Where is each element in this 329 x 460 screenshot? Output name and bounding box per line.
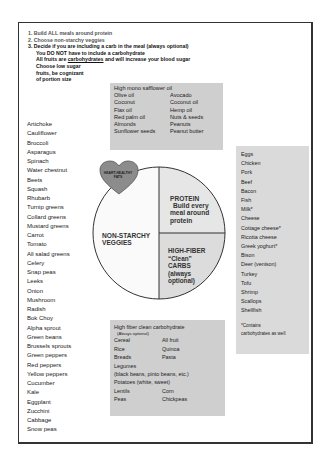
protein-item: Chicken bbox=[241, 159, 305, 168]
veggie-item: Leeks bbox=[27, 277, 71, 286]
protein-note: *Contains carbohydrates as well bbox=[241, 322, 305, 338]
carbs-label-line-4: (always bbox=[168, 270, 205, 278]
carb-potatoes: Potatoes (white, sweet) bbox=[114, 378, 221, 386]
list-item: Avocado bbox=[170, 92, 219, 99]
veggie-item: Cucumber bbox=[27, 379, 71, 388]
veggie-item: Onion bbox=[27, 287, 71, 296]
list-item: All fruit bbox=[162, 336, 221, 344]
carb-legumes-examples: (black beans, pinto beans, etc.) bbox=[114, 370, 221, 378]
protein-box: EggsChickenPorkBeefBaconFishMilk*CheeseC… bbox=[236, 146, 309, 354]
list-item: Red palm oil bbox=[114, 114, 170, 121]
list-item: Corn bbox=[162, 387, 221, 395]
list-item: Flax oil bbox=[114, 107, 170, 114]
veggie-item: Radish bbox=[27, 305, 71, 314]
list-item: Coconut oil bbox=[170, 99, 219, 106]
veggie-item: Green beans bbox=[27, 333, 71, 342]
fruits-text-underlined: carbohydrates bbox=[68, 56, 104, 62]
veggie-item: Mustard greens bbox=[27, 222, 71, 231]
protein-item: Cottage cheese* bbox=[241, 224, 305, 233]
veggie-item: Mushroom bbox=[27, 296, 71, 305]
instruction-low-sugar: Choose low sugar bbox=[28, 63, 190, 70]
carbs-label-line-1: HIGH-FIBER bbox=[168, 247, 205, 255]
carb-legumes: Legumes bbox=[114, 362, 221, 370]
protein-item: Shrimp bbox=[241, 288, 305, 297]
carb-list-b: LentilsCornPeasChickpeas bbox=[114, 387, 221, 404]
veggie-item: Beets bbox=[27, 176, 71, 185]
veggie-item: Squash bbox=[27, 185, 71, 194]
protein-item: Turkey bbox=[241, 270, 305, 279]
protein-item: Beef bbox=[241, 178, 305, 187]
list-item: Rice bbox=[114, 345, 162, 353]
protein-item: Ricotta cheese bbox=[241, 233, 305, 242]
list-item: Nuts & seeds bbox=[170, 114, 219, 121]
protein-label-line-4: protein bbox=[170, 217, 209, 224]
veggie-item: Cauliflower bbox=[27, 129, 71, 138]
protein-label-line-3: meal around bbox=[170, 209, 209, 216]
veggie-item: Celery bbox=[27, 259, 71, 268]
veggie-item: Turnip greens bbox=[27, 203, 71, 212]
protein-item: Shellfish bbox=[241, 306, 305, 315]
veggie-item: Tomato bbox=[27, 240, 71, 249]
instruction-step-2: 2. Choose non-starchy veggies bbox=[28, 37, 190, 44]
veggie-item: Carrot bbox=[27, 231, 71, 240]
veggie-item: Yellow peppers bbox=[27, 370, 71, 379]
carbs-label-line-2: “Clean” bbox=[168, 255, 205, 263]
list-item: Hemp oil bbox=[170, 107, 219, 114]
veggie-item: Broccoli bbox=[27, 139, 71, 148]
heart-label-line-2: FATS bbox=[101, 175, 135, 179]
veggie-item: Red peppers bbox=[27, 361, 71, 370]
instruction-fruits: All fruits are carbohydrates and will in… bbox=[28, 56, 190, 63]
carbs-label-line-5: optional) bbox=[168, 277, 205, 285]
list-item: Almonds bbox=[114, 121, 170, 128]
carb-list-a: CerealAll fruitRiceQuinoaBreadsPasta bbox=[114, 336, 221, 361]
veggie-item: Spinach bbox=[27, 157, 71, 166]
fruits-text-pre: All fruits are bbox=[36, 56, 68, 62]
protein-item: Milk* bbox=[241, 205, 305, 214]
veggie-item: Cabbage bbox=[27, 416, 71, 425]
list-item: Peas bbox=[114, 395, 162, 403]
veggie-item: Bok Choy bbox=[27, 314, 71, 323]
veggie-item: Rhubarb bbox=[27, 194, 71, 203]
protein-item: Greek yoghurt* bbox=[241, 242, 305, 251]
carb-box: High fiber clean carbohydrate (Always op… bbox=[110, 320, 225, 416]
protein-note-line-2: carbohydrates as well bbox=[241, 330, 305, 338]
fruits-text-post: and will increase your blood sugar bbox=[103, 56, 190, 62]
veggie-item: Snap peas bbox=[27, 268, 71, 277]
veggie-item: Eggplant bbox=[27, 398, 71, 407]
instruction-cognizant: fruits, be cognizant bbox=[28, 70, 190, 77]
list-item: Chickpeas bbox=[162, 395, 221, 403]
list-item: Quinoa bbox=[162, 345, 221, 353]
protein-note-line-1: *Contains bbox=[241, 322, 305, 330]
protein-item: Bacon bbox=[241, 187, 305, 196]
protein-item: Bison bbox=[241, 251, 305, 260]
veggie-item: Kale bbox=[27, 388, 71, 397]
protein-item: Eggs bbox=[241, 150, 305, 159]
carbs-label-line-3: CARBS bbox=[168, 262, 205, 270]
veggie-item: Alpha sprout bbox=[27, 324, 71, 333]
veggie-item: Green peppers bbox=[27, 351, 71, 360]
protein-item: Scallops bbox=[241, 297, 305, 306]
list-item: Pasta bbox=[162, 353, 221, 361]
protein-item: Cheese bbox=[241, 214, 305, 223]
protein-item: Tofu bbox=[241, 279, 305, 288]
fats-title: High mono safflower oil bbox=[114, 85, 219, 92]
list-item: Lentils bbox=[114, 387, 162, 395]
veggie-item: Brussels sprouts bbox=[27, 342, 71, 351]
instructions: 1. Build ALL meals around protein 2. Cho… bbox=[28, 30, 190, 83]
veggie-item: Artichoke bbox=[27, 120, 71, 129]
protein-item: Pork bbox=[241, 168, 305, 177]
heart-label: HEART-HEALTHY FATS bbox=[101, 171, 135, 180]
fats-list: Olive oilAvocadoCoconutCoconut oilFlax o… bbox=[114, 92, 219, 135]
list-item: Breads bbox=[114, 353, 162, 361]
protein-label-line-2: Build every bbox=[170, 202, 209, 209]
healthy-fats-box: High mono safflower oil Olive oilAvocado… bbox=[110, 83, 223, 150]
veggie-list: ArtichokeCauliflowerBroccoliAsparagusSpi… bbox=[27, 120, 71, 435]
veggies-label-line-2: VEGGIES bbox=[102, 239, 150, 246]
list-item: Olive oil bbox=[114, 92, 170, 99]
veggie-item: Collard greens bbox=[27, 213, 71, 222]
veggie-item: Zucchini bbox=[27, 407, 71, 416]
veggies-label: NON-STARCHY VEGGIES bbox=[102, 232, 150, 246]
protein-label-line-1: PROTEIN bbox=[170, 195, 209, 202]
veggie-item: Water chestnut bbox=[27, 166, 71, 175]
protein-item: Fish bbox=[241, 196, 305, 205]
